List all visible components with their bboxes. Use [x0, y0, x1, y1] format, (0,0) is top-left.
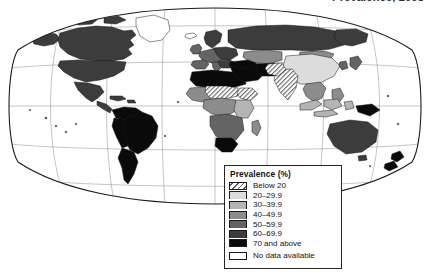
legend-row-30-39: 30–39.9 — [229, 200, 337, 210]
legend-row-20-29: 20–29.9 — [229, 191, 337, 201]
legend-swatch-70-above — [229, 239, 247, 247]
legend-label-no-data: No data available — [253, 251, 315, 260]
island-tasmania — [358, 155, 367, 161]
map-figure: Prevalence, 2008 — [0, 0, 430, 274]
legend-label-60-69: 60–69.9 — [253, 229, 282, 238]
region-sahel — [205, 86, 238, 99]
island-speck — [55, 125, 57, 127]
island-speck — [164, 135, 165, 136]
legend-swatch-30-39 — [229, 201, 247, 209]
map-legend: Prevalence (%) Below 20 20–29.9 30–39.9 … — [224, 165, 342, 269]
island-speck — [397, 123, 399, 125]
figure-title-text: Prevalence, 2008 — [332, 0, 424, 3]
legend-label-40-49: 40–49.9 — [253, 210, 282, 219]
legend-row-70-above: 70 and above — [229, 239, 337, 249]
world-map-svg — [0, 6, 430, 206]
legend-row-40-49: 40–49.9 — [229, 210, 337, 220]
island-speck — [75, 123, 76, 124]
island-speck — [65, 131, 67, 133]
island-speck — [177, 101, 179, 103]
legend-swatch-40-49 — [229, 211, 247, 219]
legend-swatch-50-59 — [229, 220, 247, 228]
legend-label-20-29: 20–29.9 — [253, 191, 282, 200]
legend-label-below-20: Below 20 — [253, 181, 286, 190]
island-speck — [29, 109, 30, 110]
legend-row-below-20: Below 20 — [229, 181, 337, 191]
island-speck — [387, 95, 389, 97]
legend-swatch-no-data — [229, 252, 247, 260]
island-speck — [369, 165, 370, 166]
legend-row-50-59: 50–59.9 — [229, 219, 337, 229]
legend-swatch-60-69 — [229, 230, 247, 238]
legend-row-no-data: No data available — [229, 251, 337, 261]
legend-swatch-below-20 — [229, 182, 247, 190]
island-speck — [45, 117, 47, 119]
legend-label-30-39: 30–39.9 — [253, 200, 282, 209]
world-map — [0, 6, 430, 206]
legend-swatch-20-29 — [229, 191, 247, 199]
legend-row-60-69: 60–69.9 — [229, 229, 337, 239]
legend-label-50-59: 50–59.9 — [253, 220, 282, 229]
legend-title: Prevalence (%) — [230, 169, 337, 179]
legend-label-70-above: 70 and above — [253, 239, 302, 248]
